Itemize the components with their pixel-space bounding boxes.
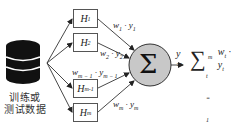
output-formula: y = ∑ m t = 1 wt · yt [176,46,237,72]
hypothesis-box-2: H2 [73,33,98,52]
summation-symbol: ∑ m t = 1 [190,48,206,70]
sum-lower-limit: t = 1 [206,65,210,129]
formula-lhs: y = [176,48,188,70]
weight-label-m: wm · ym [113,99,138,111]
input-arrows [47,19,72,112]
sum-symbol: Σ [139,50,157,78]
hypothesis-box-m: Hm [73,103,98,122]
weight-label-m-1: wm − 1 · ym − 1 [72,67,118,79]
hypothesis-box-m-1: Hm-1 [73,79,98,98]
source-label-line-1: 训练或 [0,92,50,104]
weight-label-2: w2 · y2 [100,48,123,60]
weight-label-1: w1 · y1 [113,20,136,32]
formula-term: wt · yt [218,46,237,72]
hypothesis-box-1: H1 [73,9,98,28]
database-icon [6,40,40,84]
source-label: 训练或 测试数据 [0,92,50,116]
source-label-line-2: 测试数据 [0,104,50,116]
